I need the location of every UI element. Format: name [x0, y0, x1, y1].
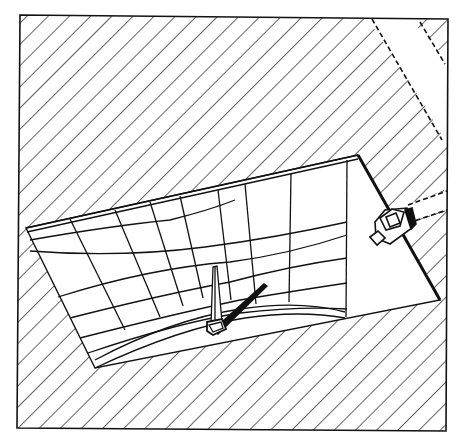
- technical-illustration: [0, 0, 464, 442]
